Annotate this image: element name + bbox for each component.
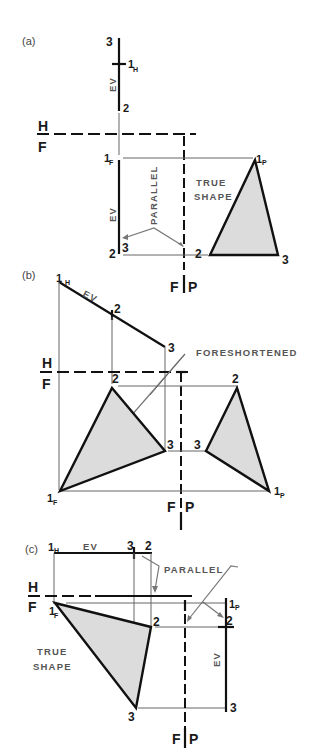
orthographic-projection-diagram: (a) 3 1 H EV 2 H F 1 F EV 2 3 F P PARALL… (0, 0, 323, 752)
parallel-arrows (124, 228, 183, 246)
panel-a-caption: (a) (22, 35, 35, 47)
fold-label-h: H (42, 355, 52, 371)
fold-label-f-right: F (172, 731, 181, 747)
label-1p-sub: P (235, 604, 240, 611)
label-2f: 2 (153, 615, 160, 629)
label-1p-sub: P (262, 159, 267, 166)
fold-label-f: F (28, 599, 37, 615)
label-1h-sub: H (65, 279, 70, 286)
fold-label-h: H (38, 118, 48, 134)
fold-label-f: F (38, 139, 47, 155)
parallel-label: PARALLEL (164, 564, 224, 575)
label-3p: 3 (282, 253, 289, 267)
label-1h: 1 (56, 272, 62, 284)
label-2f: 2 (112, 372, 119, 386)
label-3h: 3 (168, 341, 175, 355)
panel-b-caption: (b) (22, 269, 35, 281)
label-2h: 2 (114, 302, 121, 316)
label-1f-sub: F (53, 499, 58, 506)
panel-b: (b) 1 H EV 2 3 H F FORESHORTENED F P (22, 269, 298, 530)
fold-label-f-right: F (170, 279, 179, 295)
label-3f: 3 (167, 438, 174, 452)
label-2-front: 2 (109, 247, 116, 261)
label-1f-sub: F (109, 159, 114, 166)
true-shape-label-2: SHAPE (194, 191, 233, 202)
label-3-top: 3 (106, 35, 113, 49)
label-3h: 3 (127, 539, 134, 553)
true-shape-triangle (210, 160, 278, 255)
ev-side-label: EV (211, 652, 222, 667)
arrow-head-left (152, 586, 158, 593)
ev-top-label: EV (107, 77, 118, 92)
label-3-front: 3 (122, 241, 129, 255)
true-shape-label-1: TRUE (196, 177, 227, 188)
label-1p-sub: P (280, 492, 285, 499)
panel-c: (c) 1 H EV 3 2 PARALLEL H F F (25, 539, 240, 748)
label-1h-sub: H (133, 66, 138, 73)
label-3p: 3 (194, 438, 201, 452)
true-shape-label-2: SHAPE (33, 661, 72, 672)
ev-front-label: EV (107, 207, 118, 222)
profile-view-triangle (206, 388, 269, 491)
label-2p: 2 (195, 247, 202, 261)
ev-top-label: EV (83, 541, 98, 552)
fold-label-p: P (188, 279, 197, 295)
front-view-triangle (60, 388, 165, 491)
fold-label-h: H (28, 579, 38, 595)
label-2p: 2 (232, 372, 239, 386)
fold-label-p: P (189, 731, 198, 747)
label-1h-sub: H (54, 547, 59, 554)
panel-c-caption: (c) (25, 543, 38, 555)
ev-label: EV (81, 288, 99, 305)
label-2-top: 2 (123, 102, 129, 114)
foreshortened-label: FORESHORTENED (196, 347, 298, 358)
label-2h: 2 (145, 539, 152, 553)
fold-label-f: F (42, 376, 51, 392)
foreshortened-leader (150, 354, 185, 395)
arrow-head-left (122, 234, 128, 240)
true-shape-label-1: TRUE (37, 646, 68, 657)
parallel-label: PARALLEL (148, 165, 159, 225)
true-shape-triangle (55, 603, 151, 708)
label-2p: 2 (226, 614, 233, 628)
label-1f-sub: F (54, 612, 59, 619)
fold-label-p: P (185, 499, 194, 515)
panel-a: (a) 3 1 H EV 2 H F 1 F EV 2 3 F P PARALL… (22, 35, 289, 295)
label-3f: 3 (128, 710, 135, 724)
parallel-arrow-right-2 (203, 602, 220, 615)
fold-label-f-right: F (167, 499, 176, 515)
label-3p: 3 (230, 701, 237, 715)
